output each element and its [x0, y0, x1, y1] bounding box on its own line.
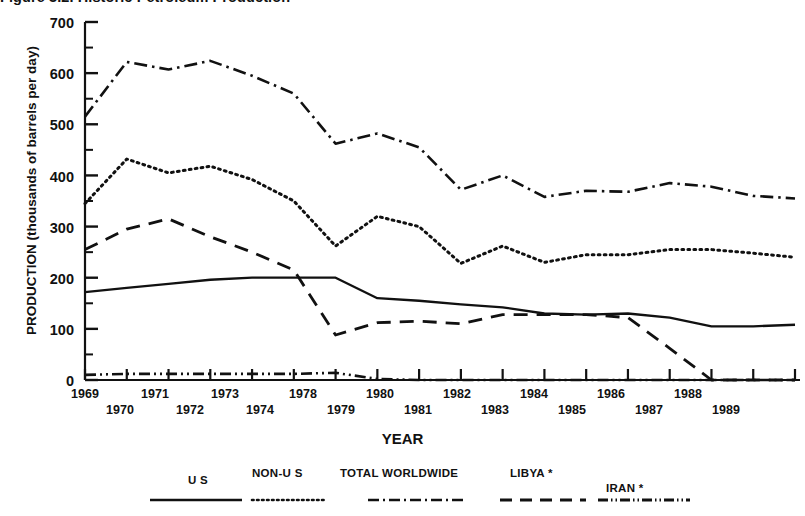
legend-label-total-worldwide: TOTAL WORLDWIDE [340, 467, 458, 479]
legend-swatch-libya [500, 496, 586, 508]
figure-panel: Figure 3.2. Historic Petroleum Productio… [0, 0, 805, 516]
axis-lines [85, 22, 800, 380]
series-line-u-s [85, 278, 795, 327]
legend-swatch-total-worldwide [368, 496, 466, 508]
series-line-non-u-s [85, 159, 795, 263]
legend-label-non-us: NON-U S [252, 467, 303, 479]
legend-label-us: U S [188, 474, 208, 486]
series-line-total-worldwide [85, 61, 795, 199]
legend-swatch-iran [598, 496, 690, 508]
legend-label-iran: IRAN * [606, 482, 644, 494]
plot-area [0, 0, 805, 440]
x-ticks [85, 369, 795, 380]
legend-label-libya: LIBYA * [510, 467, 553, 479]
data-series-layer [85, 61, 795, 380]
legend-swatch-non-us [252, 496, 324, 508]
legend-swatch-us [150, 496, 242, 508]
legend: U S NON-U S TOTAL WORLDWIDE LIBYA * IRAN [0, 462, 805, 516]
